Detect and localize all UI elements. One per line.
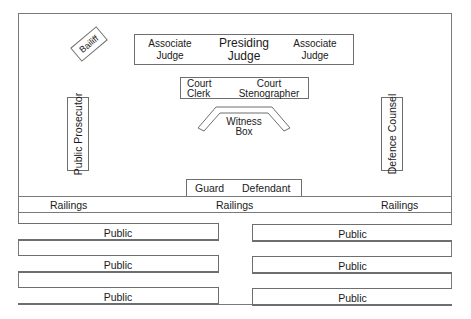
associate-judge-left: Associate Judge	[143, 39, 197, 61]
presiding-judge-line1: Presiding	[213, 37, 275, 49]
witness-box-line2: Box	[216, 127, 272, 137]
railings-center-label: Railings	[216, 200, 253, 211]
public-label: Public	[18, 259, 218, 271]
associate-judge-left-line2: Judge	[143, 51, 197, 61]
public-prosecutor-label: Public Prosecutor	[72, 93, 84, 175]
public-label: Public	[253, 228, 452, 240]
public-bench-right-1: Public	[252, 224, 452, 242]
railings-right-label: Railings	[381, 200, 418, 211]
public-bench-left-3: Public	[18, 287, 219, 305]
witness-box-label: Witness Box	[216, 117, 272, 137]
public-bench-right-3: Public	[252, 288, 452, 306]
public-bench-left-1: Public	[18, 223, 219, 241]
associate-judge-right-line2: Judge	[288, 51, 342, 61]
defendant-label: Defendant	[242, 183, 290, 194]
defence-counsel-label: Defence Counsel	[386, 94, 398, 175]
public-label: Public	[18, 227, 218, 239]
court-clerk-line2: Clerk	[187, 89, 217, 99]
public-prosecutor-table: Public Prosecutor	[67, 97, 89, 171]
presiding-judge-line2: Judge	[213, 50, 275, 62]
associate-judge-left-line1: Associate	[143, 39, 197, 49]
associate-judge-right-line1: Associate	[288, 39, 342, 49]
clerk-desk: Court Clerk Court Stenographer	[180, 77, 309, 99]
dock: Guard Defendant	[186, 179, 302, 197]
defence-counsel-table: Defence Counsel	[381, 97, 403, 171]
public-bench-right-2: Public	[252, 256, 452, 274]
associate-judge-right: Associate Judge	[288, 39, 342, 61]
public-label: Public	[18, 291, 218, 303]
public-bench-left-2: Public	[18, 255, 219, 273]
judges-bench: Associate Judge Presiding Judge Associat…	[134, 34, 354, 65]
court-stenographer-line2: Stenographer	[233, 89, 305, 99]
public-label: Public	[253, 292, 452, 304]
court-clerk: Court Clerk	[187, 79, 217, 99]
presiding-judge: Presiding Judge	[213, 37, 275, 62]
railings-left-label: Railings	[50, 200, 87, 211]
court-stenographer: Court Stenographer	[233, 79, 305, 99]
guard-label: Guard	[195, 183, 224, 194]
public-label: Public	[253, 260, 452, 272]
railings: Railings Railings Railings	[18, 196, 452, 213]
